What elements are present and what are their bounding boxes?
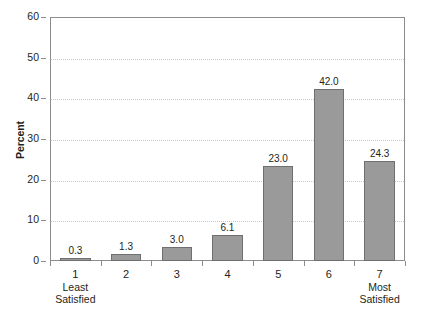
bar-chart: Percent 0102030405060 0.31.33.06.123.042… (0, 0, 421, 313)
x-tick-label: 3 (151, 267, 202, 281)
x-tick-sublabel: Most (354, 281, 405, 293)
x-tick-label: 2 (101, 267, 152, 281)
x-tick-sublabel: Least (50, 281, 101, 293)
x-tick-mark (101, 261, 102, 266)
y-tick-mark (41, 98, 46, 99)
x-tick-group: 3 (151, 267, 202, 281)
bar-slot: 6.1 (212, 17, 242, 261)
y-tick-mark (41, 139, 46, 140)
y-axis: 0102030405060 (0, 0, 50, 313)
x-tick-label: 1 (50, 267, 101, 281)
x-tick-group: 5 (253, 267, 304, 281)
y-tick-label: 50 (9, 52, 39, 62)
y-tick-mark (41, 17, 46, 18)
bar-slot: 24.3 (364, 17, 394, 261)
x-tick-sublabel: Satisfied (50, 293, 101, 305)
x-tick-mark (253, 261, 254, 266)
bar[interactable] (314, 89, 344, 261)
bars-layer: 0.31.33.06.123.042.024.3 (50, 17, 405, 261)
x-tick-label: 6 (304, 267, 355, 281)
x-tick-label: 4 (202, 267, 253, 281)
x-tick-mark (50, 261, 51, 266)
x-tick-group: 1LeastSatisfied (50, 267, 101, 305)
bar[interactable] (212, 235, 242, 261)
x-tick-label: 7 (354, 267, 405, 281)
y-tick-mark (41, 261, 46, 262)
x-tick-group: 4 (202, 267, 253, 281)
y-tick-label: 40 (9, 92, 39, 102)
y-tick-label: 10 (9, 214, 39, 224)
x-tick-mark (304, 261, 305, 266)
bar-value-label: 24.3 (370, 148, 389, 159)
y-tick-mark (41, 58, 46, 59)
bar-slot: 0.3 (60, 17, 90, 261)
bar-slot: 23.0 (263, 17, 293, 261)
bar-value-label: 6.1 (221, 222, 235, 233)
y-tick-label: 20 (9, 174, 39, 184)
x-tick-mark (354, 261, 355, 266)
x-tick-group: 7MostSatisfied (354, 267, 405, 305)
bar-slot: 1.3 (111, 17, 141, 261)
x-tick-label: 5 (253, 267, 304, 281)
y-tick-label: 60 (9, 11, 39, 21)
bar-value-label: 23.0 (268, 153, 287, 164)
bar[interactable] (263, 166, 293, 261)
bar[interactable] (111, 254, 141, 261)
bar-value-label: 42.0 (319, 76, 338, 87)
bar-slot: 3.0 (162, 17, 192, 261)
y-tick-mark (41, 180, 46, 181)
x-tick-group: 2 (101, 267, 152, 281)
y-tick-label: 30 (9, 133, 39, 143)
x-tick-mark (405, 261, 406, 266)
x-tick-group: 6 (304, 267, 355, 281)
bar-value-label: 1.3 (119, 241, 133, 252)
y-tick-mark (41, 220, 46, 221)
y-tick-label: 0 (9, 255, 39, 265)
x-tick-mark (151, 261, 152, 266)
bar[interactable] (162, 247, 192, 261)
bar[interactable] (364, 161, 394, 261)
bar-slot: 42.0 (314, 17, 344, 261)
bar-value-label: 0.3 (68, 245, 82, 256)
bar-value-label: 3.0 (170, 234, 184, 245)
x-tick-mark (202, 261, 203, 266)
x-axis: 1LeastSatisfied234567MostSatisfied (50, 261, 405, 313)
x-tick-sublabel: Satisfied (354, 293, 405, 305)
